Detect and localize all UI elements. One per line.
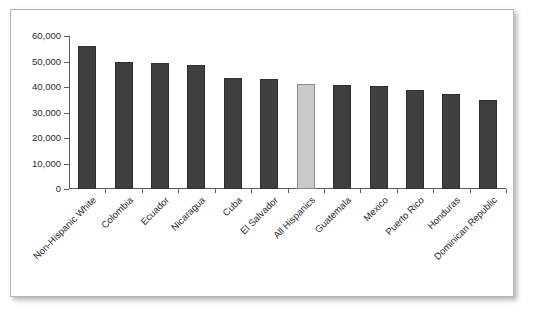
x-tick-label: Honduras <box>426 195 462 231</box>
bar <box>115 62 133 189</box>
x-tick-mark <box>142 189 143 193</box>
bars-group <box>69 36 506 189</box>
y-tick-mark <box>64 189 69 190</box>
x-tick-label: Mexico <box>361 195 389 223</box>
bar <box>297 84 315 189</box>
bar <box>370 86 388 189</box>
y-tick-label: 50,000 <box>3 57 61 67</box>
bar <box>260 79 278 189</box>
y-tick-label: 20,000 <box>3 133 61 143</box>
x-tick-mark <box>433 189 434 193</box>
bar <box>187 65 205 189</box>
x-tick-label: Non-Hispanic White <box>32 195 98 261</box>
bar <box>442 94 460 189</box>
x-tick-mark <box>360 189 361 193</box>
y-tick-label: 40,000 <box>3 82 61 92</box>
x-tick-label: Cuba <box>221 195 244 218</box>
bar <box>78 46 96 189</box>
x-tick-mark <box>178 189 179 193</box>
x-tick-mark <box>506 189 507 193</box>
x-tick-mark <box>397 189 398 193</box>
x-tick-mark <box>251 189 252 193</box>
x-tick-mark <box>470 189 471 193</box>
y-tick-label: 60,000 <box>3 31 61 41</box>
chart-card: 010,00020,00030,00040,00050,00060,000 No… <box>10 9 514 297</box>
bar <box>479 100 497 190</box>
x-tick-label: Nicaragua <box>170 195 207 232</box>
bar-chart-plot: 010,00020,00030,00040,00050,00060,000 No… <box>11 10 515 298</box>
bar <box>406 90 424 189</box>
x-tick-mark <box>288 189 289 193</box>
y-tick-label: 30,000 <box>3 108 61 118</box>
x-tick-label: Guatemala <box>313 195 353 235</box>
x-tick-mark <box>324 189 325 193</box>
x-tick-mark <box>105 189 106 193</box>
bar <box>151 63 169 189</box>
bar <box>333 85 351 189</box>
y-tick-label: 10,000 <box>3 159 61 169</box>
x-tick-label: Colombia <box>99 195 134 230</box>
bar <box>224 78 242 189</box>
y-tick-label: 0 <box>3 184 61 194</box>
x-tick-label: Ecuador <box>139 195 171 227</box>
x-tick-mark <box>215 189 216 193</box>
